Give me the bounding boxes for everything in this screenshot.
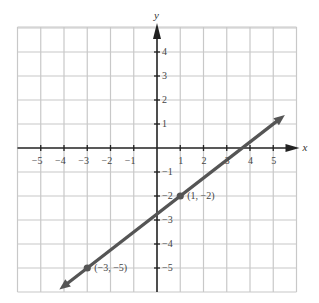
x-tick-label: −5	[32, 156, 43, 166]
x-tick-label: 5	[271, 156, 276, 166]
point-label: (−3, −5)	[94, 263, 127, 273]
coordinate-plane	[0, 0, 319, 303]
y-tick-label: −1	[162, 167, 173, 177]
y-tick-label: −3	[162, 215, 173, 225]
y-tick-label: 4	[162, 47, 167, 57]
x-axis-label: x	[303, 141, 308, 153]
x-tick-label: −2	[102, 156, 113, 166]
x-tick-label: 1	[178, 156, 183, 166]
point-label: (1, −2)	[187, 191, 214, 201]
x-tick-label: −3	[78, 156, 89, 166]
x-tick-label: −1	[125, 156, 136, 166]
y-tick-label: −5	[162, 263, 173, 273]
y-tick-label: −4	[162, 239, 173, 249]
x-tick-label: 2	[202, 156, 207, 166]
y-tick-label: 3	[162, 71, 167, 81]
x-tick-label: −4	[55, 156, 66, 166]
y-tick-label: 2	[162, 95, 167, 105]
y-tick-label: 1	[162, 119, 167, 129]
y-axis-label: y	[154, 9, 159, 21]
y-tick-label: −2	[162, 191, 173, 201]
x-tick-label: 3	[225, 156, 230, 166]
x-tick-label: 4	[248, 156, 253, 166]
